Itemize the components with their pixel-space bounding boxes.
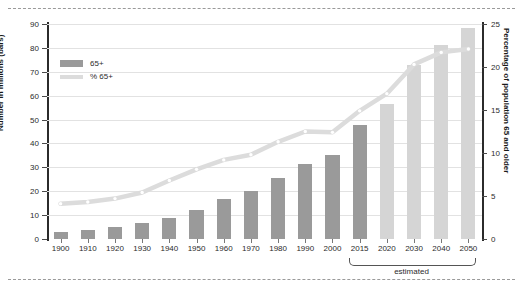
x-tick-mark: [169, 239, 170, 243]
right-tick-label: 20: [491, 63, 500, 72]
right-tick-label: 15: [491, 106, 500, 115]
x-tick-mark: [332, 239, 333, 243]
estimated-bracket-icon: [349, 258, 476, 266]
line-swatch-icon: [60, 75, 83, 79]
x-tick-label: 1980: [269, 244, 287, 253]
left-tick-mark: [42, 239, 47, 240]
legend-label-percent-65plus: % 65+: [90, 72, 113, 81]
left-tick-label: 10: [30, 211, 39, 220]
right-tick-label: 10: [491, 149, 500, 158]
chart-figure: Number in millions (bars) Percentage of …: [0, 0, 523, 292]
x-tick-label: 1990: [296, 244, 314, 253]
x-tick-label: 1940: [160, 244, 178, 253]
left-tick-label: 40: [30, 139, 39, 148]
x-tick-mark: [251, 239, 252, 243]
left-tick-label: 50: [30, 115, 39, 124]
line-marker: [222, 158, 225, 161]
x-tick-label: 1950: [188, 244, 206, 253]
right-tick-mark: [482, 67, 487, 68]
x-tick-mark: [115, 239, 116, 243]
x-tick-label: 1960: [215, 244, 233, 253]
line-marker: [113, 197, 116, 200]
left-tick-label: 60: [30, 91, 39, 100]
bar-swatch-icon: [60, 60, 83, 67]
top-divider-rule: [8, 8, 515, 9]
legend-item-line: % 65+: [60, 70, 113, 83]
line-marker: [440, 51, 443, 54]
x-tick-label: 2020: [378, 244, 396, 253]
line-marker: [331, 131, 334, 134]
x-tick-label: 1930: [133, 244, 151, 253]
x-tick-mark: [468, 239, 469, 243]
left-tick-label: 80: [30, 43, 39, 52]
x-tick-mark: [387, 239, 388, 243]
percent-line-path: [61, 49, 469, 204]
x-tick-mark: [88, 239, 89, 243]
left-tick-label: 30: [30, 163, 39, 172]
left-tick-label: 20: [30, 187, 39, 196]
x-tick-label: 1910: [79, 244, 97, 253]
line-marker: [195, 168, 198, 171]
left-tick-label: 0: [35, 235, 39, 244]
x-tick-mark: [61, 239, 62, 243]
estimated-annotation: estimated: [349, 258, 474, 280]
x-tick-mark: [224, 239, 225, 243]
x-tick-mark: [360, 239, 361, 243]
x-tick-mark: [142, 239, 143, 243]
left-axis-title: Number in millions (bars): [0, 35, 5, 131]
x-tick-label: 2000: [324, 244, 342, 253]
line-marker: [467, 47, 470, 50]
x-tick-label: 1900: [52, 244, 70, 253]
line-marker: [86, 200, 89, 203]
line-marker: [168, 179, 171, 182]
right-tick-mark: [482, 153, 487, 154]
line-marker: [276, 140, 279, 143]
x-tick-label: 1920: [106, 244, 124, 253]
right-tick-mark: [482, 196, 487, 197]
line-marker: [304, 130, 307, 133]
x-tick-mark: [197, 239, 198, 243]
x-tick-label: 2040: [432, 244, 450, 253]
x-tick-mark: [305, 239, 306, 243]
right-tick-mark: [482, 110, 487, 111]
chart-legend: 65+ % 65+: [60, 57, 113, 83]
line-marker: [358, 109, 361, 112]
x-tick-label: 1970: [242, 244, 260, 253]
right-axis-spine: [482, 22, 484, 241]
legend-item-bars: 65+: [60, 57, 113, 70]
line-marker: [140, 191, 143, 194]
right-tick-label: 5: [491, 192, 495, 201]
left-tick-label: 90: [30, 20, 39, 29]
x-tick-label: 2050: [460, 244, 478, 253]
right-tick-label: 0: [491, 235, 495, 244]
right-axis-title: Percentage of population 65 and older: [502, 28, 511, 173]
x-tick-mark: [441, 239, 442, 243]
left-tick-label: 70: [30, 67, 39, 76]
line-marker: [385, 92, 388, 95]
right-tick-label: 25: [491, 20, 500, 29]
x-tick-label: 2030: [405, 244, 423, 253]
x-tick-mark: [278, 239, 279, 243]
line-marker: [249, 153, 252, 156]
x-tick-mark: [414, 239, 415, 243]
line-marker: [412, 63, 415, 66]
right-tick-mark: [482, 239, 487, 240]
right-tick-mark: [482, 24, 487, 25]
estimated-label: estimated: [349, 267, 474, 276]
legend-label-65plus: 65+: [90, 59, 104, 68]
x-tick-label: 2015: [351, 244, 369, 253]
line-marker: [59, 202, 62, 205]
